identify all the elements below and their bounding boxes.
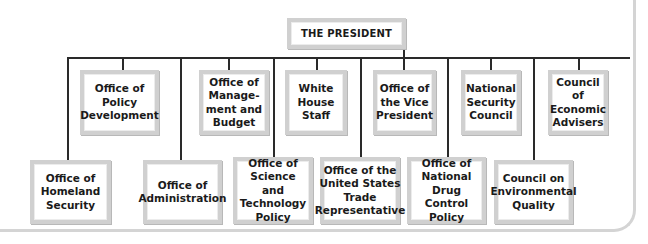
office-trade-representative-box: Office of the United States Trade Repres… <box>320 157 400 224</box>
connector-environmental-quality <box>533 57 535 161</box>
box-label: Office of Homeland Security <box>41 172 101 213</box>
office-administration-box: Office of Administration <box>143 160 222 224</box>
connector-economic-advisers <box>628 57 630 59</box>
office-management-budget-box: Office of Manage- ment and Budget <box>199 70 269 135</box>
connector-homeland-security <box>67 57 69 161</box>
white-house-staff-box: White House Staff <box>285 70 347 135</box>
box-label: Office of Policy Development <box>80 82 159 123</box>
connector-vice-president <box>403 57 405 71</box>
office-homeland-security-box: Office of Homeland Security <box>30 160 111 224</box>
office-policy-development-box: Office of Policy Development <box>80 70 159 135</box>
box-label: Council of Economic Advisers <box>550 76 606 130</box>
president-label: THE PRESIDENT <box>301 27 392 41</box>
box-label: Office of Manage- ment and Budget <box>206 76 262 130</box>
connector-trade-rep <box>360 57 362 161</box>
box-label: Office of Science and Technology Policy <box>239 157 307 225</box>
box-label: Office of National Drug Control Policy <box>413 157 480 225</box>
box-label: Office of the United States Trade Repres… <box>315 164 406 218</box>
connector-administration <box>180 57 182 161</box>
connector-science-technology <box>273 57 275 161</box>
connector-drug-control <box>447 57 449 161</box>
box-label: Office of the Vice President <box>376 82 433 123</box>
president-box: THE PRESIDENT <box>287 18 406 49</box>
council-economic-advisers-box: Council of Economic Advisers <box>548 70 608 135</box>
connector-white-house-staff <box>316 57 318 71</box>
connector-economic-advisers-drop <box>578 57 580 71</box>
office-vice-president-box: Office of the Vice President <box>373 70 436 135</box>
box-label: Council on Environmental Quality <box>490 172 576 213</box>
office-drug-control-box: Office of National Drug Control Policy <box>407 157 486 224</box>
office-science-technology-box: Office of Science and Technology Policy <box>233 157 313 224</box>
box-label: National Security Council <box>466 82 516 123</box>
main-horizontal-line <box>67 57 629 59</box>
connector-national-security <box>490 57 492 71</box>
box-label: White House Staff <box>298 82 335 123</box>
box-label: Office of Administration <box>138 179 226 206</box>
council-environmental-quality-box: Council on Environmental Quality <box>494 160 573 224</box>
connector-policy-development <box>122 57 124 71</box>
connector-management-budget <box>228 57 230 71</box>
national-security-council-box: National Security Council <box>461 70 521 135</box>
